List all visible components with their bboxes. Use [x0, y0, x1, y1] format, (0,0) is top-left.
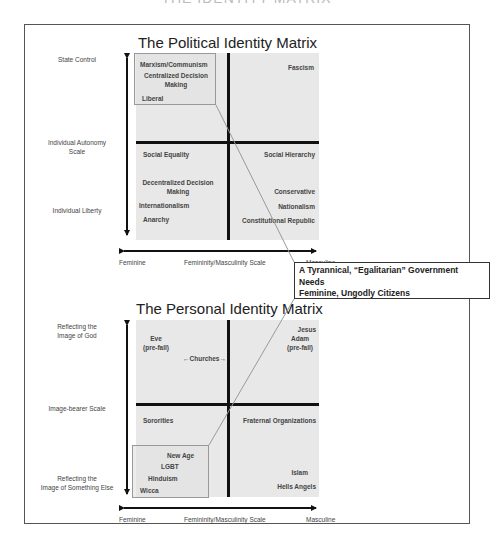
connector-line-top [216, 105, 294, 262]
arrows-and-connectors [0, 0, 493, 549]
connector-line-bottom [209, 299, 294, 445]
